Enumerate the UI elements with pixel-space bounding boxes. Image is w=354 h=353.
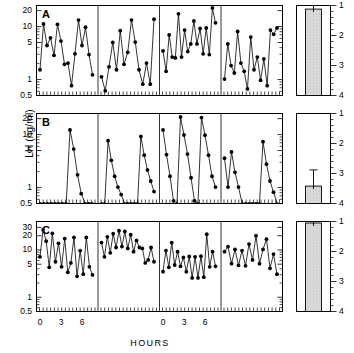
x-tick-3-col3: 3 xyxy=(177,317,191,327)
panel-c-interval-bar-chart xyxy=(296,221,354,313)
panel-a-bar-ytick-2: 2 xyxy=(339,30,344,40)
panel-b-bar-ytick-4: 4 xyxy=(339,198,344,208)
panel-a-ytick-0.5: 0.5 xyxy=(6,90,32,100)
panel-b-subject-1 xyxy=(39,128,94,204)
panel-a-ytick-20: 20 xyxy=(6,5,32,15)
panel-c-ytick-0.5: 0.5 xyxy=(6,306,32,316)
panel-c-ytick-5: 5 xyxy=(6,259,32,269)
panel-c-ytick-1: 1 xyxy=(6,292,32,302)
panel-a-ytick-1: 1 xyxy=(6,74,32,84)
panel-a-subject-4 xyxy=(223,26,279,91)
panel-label-c: C xyxy=(42,224,50,236)
panel-a-ytick-5: 5 xyxy=(6,37,32,47)
panel-a-bar-ytick-1: 1 xyxy=(339,0,344,10)
panel-c-bar-ytick-1: 1 xyxy=(339,216,344,226)
panel-b-bar-ytick-3: 3 xyxy=(339,168,344,178)
panel-b-interval-bar-chart xyxy=(296,113,354,205)
panel-a-subject-2 xyxy=(100,17,156,92)
panel-b-subject-3 xyxy=(161,115,217,204)
panel-b-bar-ytick-1: 1 xyxy=(339,108,344,118)
panel-c-ytick-10: 10 xyxy=(6,244,32,254)
panel-c-subject-3 xyxy=(161,232,217,280)
panel-c-bar-ytick-4: 4 xyxy=(339,306,344,316)
panel-a-bar-ytick-3: 3 xyxy=(339,60,344,70)
lh-pulsatility-figure: LH (ng/ml) LH INTERPULSE INTERVAL (hours… xyxy=(0,0,354,353)
panel-a-ytick-10: 10 xyxy=(6,21,32,31)
x-axis-label: HOURS xyxy=(0,338,300,348)
panel-c-subject-4 xyxy=(223,234,279,276)
panel-label-a: A xyxy=(42,8,50,20)
panel-b-ytick-0.5: 0.5 xyxy=(6,198,32,208)
panel-c-bar-ytick-2: 2 xyxy=(339,246,344,256)
panel-label-b: B xyxy=(42,116,50,128)
panel-b-ytick-5: 5 xyxy=(6,145,32,155)
x-tick-0-col3: 0 xyxy=(156,317,170,327)
panel-b-ytick-10: 10 xyxy=(6,129,32,139)
panel-c-subject-2 xyxy=(100,229,156,265)
panel-c-ytick-20: 20 xyxy=(6,230,32,240)
panel-b-subject-4 xyxy=(223,140,278,204)
x-tick-6-col1: 6 xyxy=(75,317,89,327)
panel-c-bar-ytick-3: 3 xyxy=(339,276,344,286)
panel-a-subject-3 xyxy=(161,6,217,73)
panel-b-ytick-20: 20 xyxy=(6,113,32,123)
x-tick-3-col1: 3 xyxy=(54,317,68,327)
panel-b-subject-2 xyxy=(101,135,156,204)
x-tick-6-col3: 6 xyxy=(198,317,212,327)
panel-a-subject-1 xyxy=(38,18,94,87)
x-tick-0-col1: 0 xyxy=(33,317,47,327)
panel-a-bar-ytick-4: 4 xyxy=(339,90,344,100)
panel-b-ytick-1: 1 xyxy=(6,182,32,192)
panel-b-bar-ytick-2: 2 xyxy=(339,138,344,148)
panel-a-interval-bar-chart xyxy=(296,5,354,97)
